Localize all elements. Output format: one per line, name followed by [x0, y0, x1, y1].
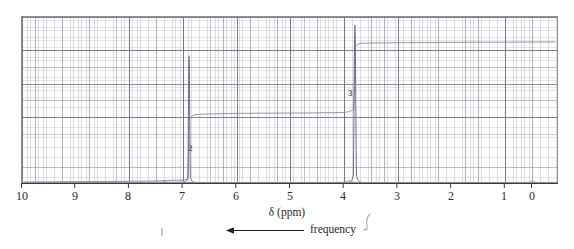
axis-tick-label-8: 8 [115, 190, 141, 203]
scan-speck-artifact [161, 228, 163, 236]
axis-tick-label-2: 2 [438, 190, 464, 203]
axis-tick-label-6: 6 [223, 190, 249, 203]
integral-label-3: 3 [348, 89, 353, 98]
frequency-direction-row: frequency [226, 222, 416, 238]
frequency-arrow-left-icon [226, 226, 304, 235]
scan-artifact-mark [360, 212, 376, 232]
axis-tick-label-5: 5 [277, 190, 303, 203]
axis-tick-label-7: 7 [169, 190, 195, 203]
spectrum-trace-layer [22, 17, 558, 183]
axis-tick-label-10: 10 [9, 190, 35, 203]
x-axis-title: δ (ppm) [0, 206, 574, 218]
axis-tick-label-4: 4 [330, 190, 356, 203]
peak-methoxy-3p75 [348, 25, 366, 182]
peak-aromatic-6p9 [183, 56, 201, 183]
spectrum-plot-frame: 2 3 [21, 16, 558, 183]
nmr-spectrum-figure: 2 3 10 9 8 7 6 5 4 3 2 1 0 δ (ppm) [0, 0, 574, 249]
axis-tick-label-0: 0 [519, 190, 545, 203]
integral-trace [24, 42, 555, 182]
axis-tick-label-3: 3 [384, 190, 410, 203]
axis-tick-label-1: 1 [491, 190, 517, 203]
integral-label-2: 2 [188, 144, 193, 153]
frequency-label: frequency [310, 222, 356, 236]
axis-tick-label-9: 9 [62, 190, 88, 203]
